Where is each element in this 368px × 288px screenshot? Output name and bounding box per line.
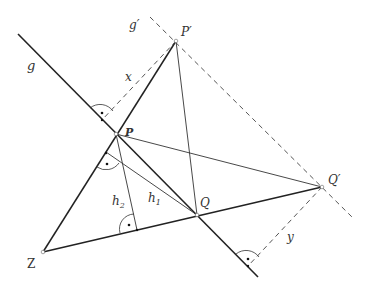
segment-y — [248, 187, 322, 266]
label-x: x — [125, 70, 132, 84]
point-q — [195, 213, 199, 217]
label-z: Z — [27, 257, 35, 271]
label-h2: h2 — [112, 194, 125, 210]
line-z-q-prime — [43, 187, 322, 252]
geometry-diagram: g g′ x P P′ Q Q′ Z y h2 h1 — [0, 0, 368, 288]
label-p: P — [124, 126, 134, 139]
point-p-prime — [174, 39, 178, 43]
label-q-prime: Q′ — [328, 173, 341, 187]
segment-x — [102, 41, 176, 120]
point-p — [114, 132, 118, 136]
line-p-q-prime — [116, 134, 322, 187]
label-h1: h1 — [148, 191, 161, 207]
point-z — [41, 250, 45, 254]
line-g — [18, 34, 258, 277]
line-z-p-prime — [43, 41, 176, 252]
segment-h2 — [116, 134, 137, 230]
point-q-prime — [320, 185, 324, 189]
label-g: g — [27, 58, 35, 73]
label-g-prime: g′ — [129, 18, 140, 32]
label-q: Q — [200, 196, 210, 210]
label-p-prime: P′ — [180, 25, 192, 39]
line-g-prime — [150, 17, 354, 219]
line-q-p-prime — [176, 41, 197, 215]
label-y: y — [286, 230, 294, 244]
